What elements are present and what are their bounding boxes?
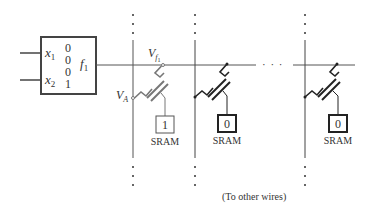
routing-column-3: 0 SRAM <box>304 14 353 186</box>
sram-label: SRAM <box>151 136 179 147</box>
switch-voltage-label: VA <box>116 88 128 104</box>
fpga-routing-diagram: x1 x2 0 0 0 1 f1 · · · Vf1 VA <box>0 0 370 213</box>
routing-column-2: 0 SRAM <box>194 14 242 186</box>
wire-voltage-label: Vf1 <box>148 46 161 63</box>
dot <box>194 32 196 34</box>
dot <box>304 23 306 25</box>
dot <box>194 184 196 186</box>
dot <box>194 166 196 168</box>
dot <box>132 23 134 25</box>
sram-label: SRAM <box>324 135 352 146</box>
input-label-x2: x2 <box>44 72 55 89</box>
sram-value: 1 <box>162 118 168 132</box>
dot <box>304 14 306 16</box>
wire-ellipsis: · · · <box>262 58 284 70</box>
lut-block: x1 x2 0 0 0 1 f1 <box>20 37 96 94</box>
dot <box>304 166 306 168</box>
dot <box>132 14 134 16</box>
dot <box>132 166 134 168</box>
dot <box>194 14 196 16</box>
sram-label: SRAM <box>213 135 241 146</box>
routing-column-1: 1 SRAM <box>132 14 180 186</box>
input-label-x1: x1 <box>44 45 55 62</box>
dot <box>304 184 306 186</box>
pass-transistor-icon <box>132 64 169 117</box>
dot <box>304 175 306 177</box>
output-label-f1: f1 <box>80 56 88 73</box>
dot <box>132 184 134 186</box>
dot <box>304 32 306 34</box>
sram-value: 0 <box>335 117 341 131</box>
dot <box>194 175 196 177</box>
sram-value: 0 <box>224 117 230 131</box>
dot <box>132 32 134 34</box>
dot <box>194 23 196 25</box>
dot <box>132 175 134 177</box>
lut-value-3: 1 <box>65 77 71 91</box>
footnote-to-other-wires: (To other wires) <box>222 191 286 203</box>
pass-transistor-icon <box>304 63 341 116</box>
pass-transistor-icon <box>194 63 231 116</box>
